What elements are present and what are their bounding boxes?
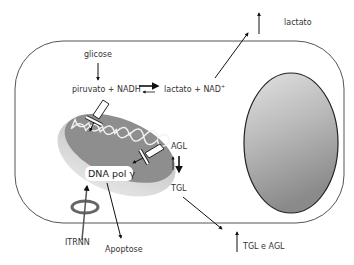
diagram-canvas: DNA pol γ ITRNN Apoptose glicose piruvat… xyxy=(0,0,354,265)
label-dna-pol: DNA pol γ xyxy=(88,168,135,179)
mitochondrion xyxy=(46,97,189,212)
label-agl: AGL xyxy=(171,142,188,151)
label-apoptose: Apoptose xyxy=(105,245,143,254)
label-tgl: TGL xyxy=(170,184,187,193)
nucleus xyxy=(244,73,338,213)
label-tgl-e-agl: TGL e AGL xyxy=(242,242,285,251)
label-glicose: glicose xyxy=(84,50,112,59)
label-itrnn: ITRNN xyxy=(65,238,90,247)
label-lactato-nad: lactato + NAD+ xyxy=(164,83,225,94)
lactato-export-arrow xyxy=(215,33,248,78)
reversible-arrow-icon xyxy=(139,86,158,92)
label-piruvato-nadh: piruvato + NADH xyxy=(72,85,141,94)
label-lactato-out: lactato xyxy=(284,18,312,27)
tgl-export-arrow xyxy=(183,197,222,229)
